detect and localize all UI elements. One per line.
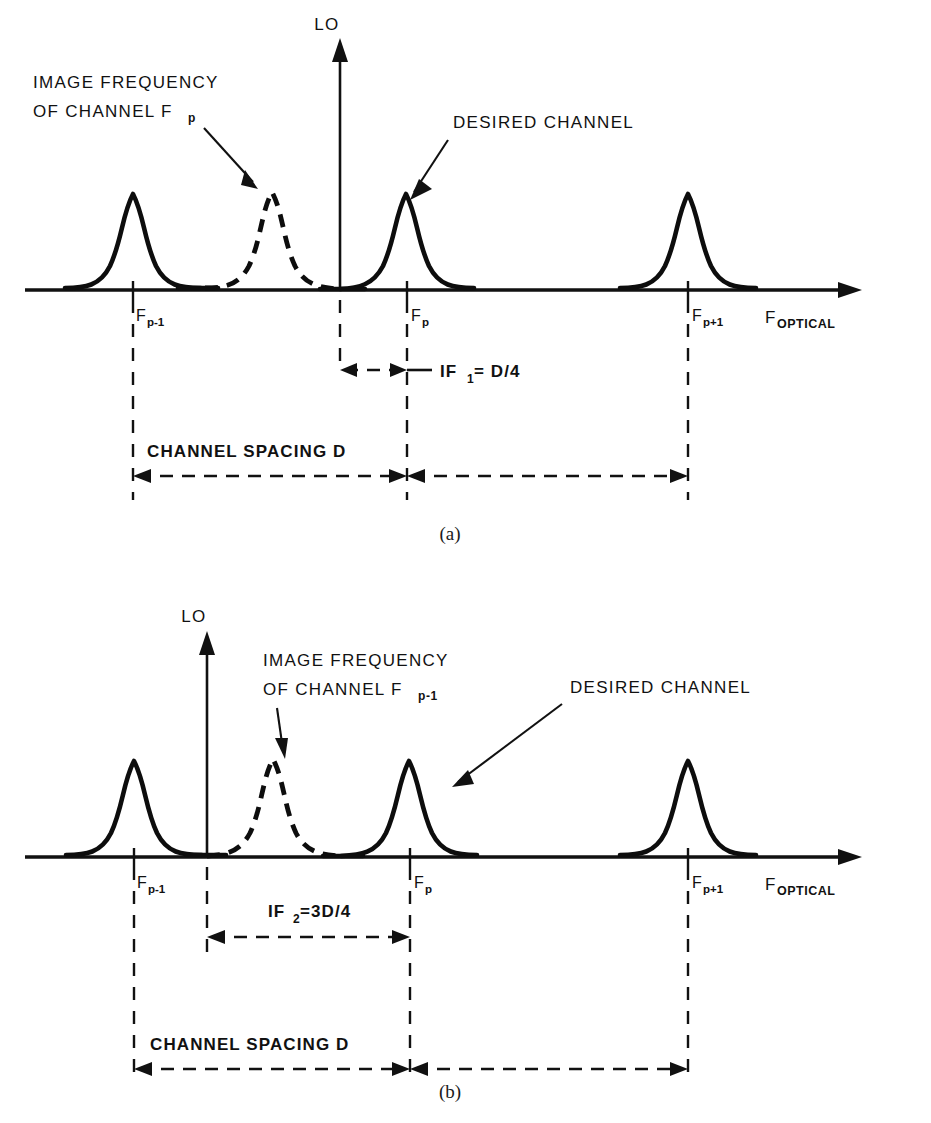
curve-channel-fp1-b <box>620 761 756 855</box>
tick-sub: p-1 <box>148 883 166 895</box>
curve-image-frequency-a <box>205 192 339 289</box>
tick-main: F <box>411 307 421 324</box>
x-axis-label-a: F OPTICAL <box>765 308 835 331</box>
curve-channel-fp-1-a <box>65 194 201 288</box>
curve-desired-channel-b <box>341 761 477 856</box>
if1-label-main: IF <box>440 362 457 381</box>
image-frequency-line1: IMAGE FREQUENCY <box>33 73 219 92</box>
annotation-image-frequency-a: IMAGE FREQUENCY OF CHANNEL F p <box>33 73 258 189</box>
panel-b-svg: LO F p-1 F p F <box>0 560 931 1123</box>
tick-main: F <box>137 874 147 891</box>
image-frequency-line1: IMAGE FREQUENCY <box>263 651 449 670</box>
x-tick-label-fp1-b: F p+1 <box>692 874 724 895</box>
dimension-if1-a: IF 1 = D/4 <box>340 362 521 386</box>
leader-line-desired-channel-b <box>458 704 562 782</box>
panel-a-svg: LO F p-1 F p <box>0 0 931 560</box>
desired-channel-label: DESIRED CHANNEL <box>570 678 751 697</box>
leader-arrow-image-frequency-b <box>275 738 288 759</box>
desired-channel-label: DESIRED CHANNEL <box>453 113 634 132</box>
lo-label-a: LO <box>314 15 339 34</box>
x-tick-label-fp-1-a: F p-1 <box>136 307 165 328</box>
tick-main: F <box>692 874 702 891</box>
image-frequency-line2: OF CHANNEL F <box>263 680 403 699</box>
image-frequency-line2: OF CHANNEL F <box>33 102 173 121</box>
curve-channel-fp1-a <box>620 194 756 288</box>
x-tick-label-fp-a: F p <box>411 307 429 328</box>
drop-lines-a <box>133 300 688 500</box>
axis-label-main: F <box>765 308 776 327</box>
curve-image-frequency-b <box>207 759 340 856</box>
channel-spacing-label: CHANNEL SPACING D <box>147 442 346 461</box>
image-frequency-line2-sub: p-1 <box>418 689 438 703</box>
figure-root: LO F p-1 F p <box>0 0 931 1123</box>
panel-b: LO F p-1 F p F <box>0 560 931 1123</box>
dimension-if2-b: IF 2 =3D/4 <box>207 902 410 944</box>
lo-axis-a <box>332 38 348 290</box>
if1-label-sub: 1 <box>467 372 474 386</box>
annotation-desired-channel-b: DESIRED CHANNEL <box>452 678 751 787</box>
tick-main: F <box>136 307 146 324</box>
if2-label-main: IF <box>268 902 285 921</box>
tick-sub: p-1 <box>147 316 165 328</box>
curve-channel-fp-1-b <box>66 761 202 855</box>
if1-label-tail: = D/4 <box>474 362 521 381</box>
x-tick-label-fp1-a: F p+1 <box>692 307 724 328</box>
axis-label-main: F <box>765 875 776 894</box>
tick-sub: p+1 <box>703 316 724 328</box>
if2-label-tail: =3D/4 <box>300 902 351 921</box>
tick-sub: p <box>425 883 432 895</box>
x-axis-label-b: F OPTICAL <box>765 875 835 898</box>
tick-sub: p+1 <box>703 883 724 895</box>
dimension-channel-spacing-a: CHANNEL SPACING D <box>133 442 688 483</box>
panel-a: LO F p-1 F p <box>0 0 931 560</box>
axis-label-sub: OPTICAL <box>777 884 835 898</box>
lo-label-b: LO <box>181 607 206 626</box>
x-tick-label-fp-b: F p <box>414 874 432 895</box>
tick-main: F <box>692 307 702 324</box>
panel-caption-b: (b) <box>439 1081 461 1103</box>
panel-caption-a: (a) <box>439 523 460 545</box>
curve-desired-channel-a <box>340 194 474 289</box>
channel-spacing-label: CHANNEL SPACING D <box>150 1035 349 1054</box>
annotation-image-frequency-b: IMAGE FREQUENCY OF CHANNEL F p-1 <box>263 651 449 759</box>
lo-axis-b <box>199 631 215 857</box>
axis-label-sub: OPTICAL <box>777 317 835 331</box>
tick-main: F <box>414 874 424 891</box>
image-frequency-line2-sub: p <box>188 111 196 125</box>
x-tick-label-fp-1-b: F p-1 <box>137 874 166 895</box>
if2-label-sub: 2 <box>293 912 300 926</box>
annotation-desired-channel-a: DESIRED CHANNEL <box>410 113 634 200</box>
tick-sub: p <box>422 316 429 328</box>
leader-arrow-desired-channel-a <box>410 179 432 200</box>
